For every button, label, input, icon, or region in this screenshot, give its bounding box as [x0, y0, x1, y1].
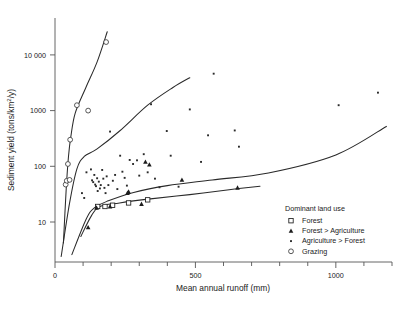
data-point: [166, 130, 168, 132]
legend-item-label: Grazing: [302, 247, 327, 256]
data-point: [106, 175, 108, 177]
data-point: [86, 171, 88, 173]
series-grazing: [63, 40, 108, 187]
legend-item-label: Forest > Agriculture: [302, 226, 365, 235]
data-point: [159, 186, 161, 188]
legend-marker-small-dot-icon: [290, 240, 292, 242]
data-point: [129, 159, 131, 161]
data-point: [112, 180, 114, 182]
data-point: [66, 162, 71, 167]
legend-marker-filled-triangle-icon: [289, 228, 294, 232]
data-point: [338, 104, 340, 106]
data-point: [132, 163, 134, 165]
data-point: [104, 40, 109, 45]
data-point: [121, 171, 123, 173]
legend-title: Dominant land use: [285, 204, 345, 213]
y-axis-ticks: 10100100010 000: [24, 51, 55, 227]
data-point: [103, 187, 105, 189]
data-point: [98, 181, 100, 183]
data-point: [105, 192, 107, 194]
data-point: [100, 184, 102, 186]
data-point: [119, 155, 121, 157]
data-point: [126, 189, 131, 193]
envelope-curve-agriculture-envelope: [61, 78, 190, 257]
data-point: [124, 177, 126, 179]
x-tick-label: 0: [53, 271, 57, 280]
data-point: [126, 185, 128, 187]
sediment-yield-scatter-chart: 10100100010 000 05001000 Mean annual run…: [0, 0, 401, 323]
legend-item-forest: Forest: [289, 216, 323, 225]
data-point: [200, 161, 202, 163]
legend-item-forest-agriculture: Forest > Agriculture: [289, 226, 365, 235]
data-point: [147, 171, 149, 173]
data-point: [81, 192, 83, 194]
legend-items: ForestForest > AgricultureAgriculture > …: [289, 216, 365, 256]
data-point: [377, 92, 379, 94]
series-agriculture-forest: [81, 73, 379, 199]
data-point: [238, 146, 240, 148]
data-point: [138, 175, 140, 177]
envelope-curve-forest-agriculture-envelope: [72, 126, 387, 254]
x-axis-title: Mean annual runoff (mm): [176, 283, 270, 293]
data-point: [114, 174, 116, 176]
data-point: [234, 130, 236, 132]
data-point: [99, 188, 101, 190]
y-axis-title: Sediment yield (tons/km2/y): [6, 89, 16, 191]
legend-marker-open-square-icon: [289, 219, 293, 223]
data-point: [116, 188, 118, 190]
data-point: [235, 185, 240, 189]
data-point: [102, 178, 104, 180]
x-tick-label: 500: [189, 271, 201, 280]
data-point: [178, 186, 180, 188]
data-point: [67, 177, 72, 182]
data-point: [83, 197, 85, 199]
data-point: [75, 103, 80, 108]
envelope-curves-layer: [61, 32, 386, 257]
data-point: [180, 177, 185, 181]
data-point: [207, 134, 209, 136]
series-forest-agriculture: [86, 159, 240, 229]
data-point: [139, 202, 144, 206]
data-point: [101, 169, 103, 171]
data-point: [170, 155, 172, 157]
data-point: [90, 168, 92, 170]
data-point: [109, 131, 111, 133]
y-tick-label: 1000: [30, 106, 46, 115]
legend-item-label: Forest: [302, 216, 322, 225]
x-tick-label: 1000: [328, 271, 344, 280]
data-point: [154, 178, 156, 180]
data-point: [136, 159, 138, 161]
legend-item-label: Agriculture > Forest: [302, 236, 365, 245]
data-point: [92, 181, 94, 183]
data-point: [96, 177, 98, 179]
x-axis-ticks: 05001000: [53, 262, 392, 280]
data-point: [68, 137, 73, 142]
y-tick-label: 10 000: [24, 51, 46, 60]
data-point: [143, 159, 148, 163]
data-point: [189, 108, 191, 110]
data-point: [145, 198, 149, 202]
data-point: [97, 190, 99, 192]
data-point: [86, 108, 91, 113]
data-point: [93, 174, 95, 176]
data-point: [147, 162, 152, 166]
legend-item-grazing: Grazing: [289, 247, 328, 256]
data-point: [143, 153, 145, 155]
data-point: [95, 185, 97, 187]
legend-marker-open-circle-icon: [289, 249, 294, 254]
legend: Dominant land use ForestForest > Agricul…: [285, 204, 365, 256]
data-point: [107, 184, 109, 186]
data-point: [126, 201, 130, 205]
legend-item-agriculture-forest: Agriculture > Forest: [290, 236, 365, 245]
data-point: [150, 103, 152, 105]
data-point: [103, 204, 107, 208]
y-tick-label: 10: [38, 218, 46, 227]
data-point: [213, 73, 215, 75]
y-tick-label: 100: [34, 162, 46, 171]
data-points-layer: [63, 40, 379, 230]
data-point: [91, 179, 93, 181]
figure-container: 10100100010 000 05001000 Mean annual run…: [0, 0, 401, 323]
envelope-curve-forest-envelope: [81, 186, 260, 236]
